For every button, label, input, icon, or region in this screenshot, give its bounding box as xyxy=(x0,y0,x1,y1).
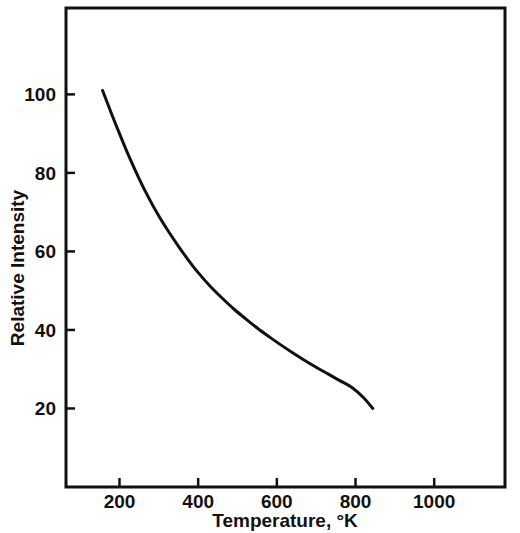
x-tick-label-1000: 1000 xyxy=(413,491,455,512)
y-tick-label-100: 100 xyxy=(24,84,56,105)
x-axis-title: Temperature, °K xyxy=(212,510,358,531)
line-chart-svg: 20406080100 2004006008001000 Temperature… xyxy=(0,0,520,533)
chart-figure: 20406080100 2004006008001000 Temperature… xyxy=(0,0,520,533)
data-curve-0 xyxy=(103,90,373,408)
x-tick-label-200: 200 xyxy=(104,491,136,512)
y-tick-label-60: 60 xyxy=(35,241,56,262)
x-tick-label-400: 400 xyxy=(182,491,214,512)
y-tick-label-80: 80 xyxy=(35,163,56,184)
x-axis-tick-labels: 2004006008001000 xyxy=(104,491,456,512)
data-series-group xyxy=(103,90,373,408)
y-tick-label-40: 40 xyxy=(35,320,56,341)
plot-frame xyxy=(66,8,505,487)
x-tick-label-600: 600 xyxy=(261,491,293,512)
y-axis-tick-labels: 20406080100 xyxy=(24,84,56,419)
y-axis-title: Relative Intensity xyxy=(7,189,28,346)
y-tick-label-20: 20 xyxy=(35,398,56,419)
x-tick-label-800: 800 xyxy=(340,491,372,512)
